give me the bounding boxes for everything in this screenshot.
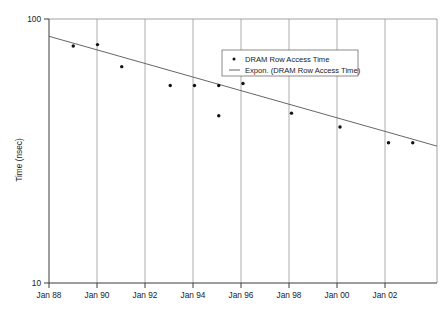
x-tick-label-0: Jan 88 (37, 290, 62, 300)
y-tick-label-top: 100 (27, 14, 41, 24)
x-tick-label-5: Jan 98 (277, 290, 302, 300)
legend: DRAM Row Access Time Expon. (DRAM Row Ac… (222, 50, 361, 76)
chart-container: 100 10 Time (nsec) Jan 88 Jan 90 Jan 92 … (0, 0, 448, 314)
y-axis-title: Time (nsec) (14, 138, 24, 182)
data-point (96, 43, 99, 46)
data-point (217, 84, 220, 87)
data-point (338, 125, 341, 128)
data-point (411, 141, 414, 144)
x-tick-label-3: Jan 94 (181, 290, 206, 300)
legend-marker-dot (233, 58, 236, 61)
legend-label-series: DRAM Row Access Time (245, 55, 329, 64)
legend-label-trendline: Expon. (DRAM Row Access Time) (245, 66, 361, 75)
data-point (193, 84, 196, 87)
x-tick-label-4: Jan 96 (229, 290, 254, 300)
data-point (169, 84, 172, 87)
x-tick-label-7: Jan 02 (373, 290, 398, 300)
data-point (290, 111, 293, 114)
data-point (387, 141, 390, 144)
y-tick-label-bottom: 10 (32, 278, 42, 288)
x-tick-label-1: Jan 90 (85, 290, 110, 300)
data-point (120, 65, 123, 68)
data-point (72, 44, 75, 47)
data-point (241, 82, 244, 85)
data-point (217, 114, 220, 117)
x-tick-label-6: Jan 00 (325, 290, 350, 300)
dram-row-access-time-chart: 100 10 Time (nsec) Jan 88 Jan 90 Jan 92 … (0, 0, 448, 314)
x-tick-label-2: Jan 92 (133, 290, 158, 300)
